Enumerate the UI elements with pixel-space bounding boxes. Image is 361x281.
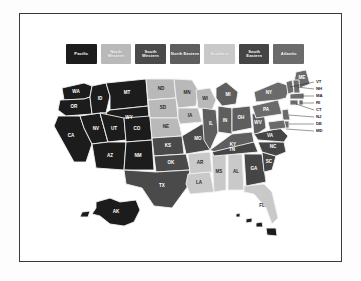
leader-line-NJ [289,115,314,117]
label-GA: GA [251,166,259,171]
leader-line-CT [296,104,314,110]
label-OK: OK [168,160,176,165]
state-MA[interactable] [290,93,304,99]
label-NY: NY [266,90,272,95]
label-KS: KS [165,143,171,148]
label-TX: TX [159,183,166,188]
label-SD: SD [160,105,167,110]
label-VA: VA [267,133,274,138]
label-ND: ND [158,86,165,91]
label-MS: MS [216,169,223,174]
label-MO: MO [194,136,202,141]
label-NM: NM [134,153,141,158]
label-WI: WI [202,96,208,101]
legend-chip-pacific[interactable]: Pacific [66,44,97,64]
state-NH[interactable] [293,80,300,93]
label-SC: SC [266,159,273,164]
label-IA: IA [188,113,193,118]
state-HI-island-4[interactable] [266,228,277,236]
callout-VT: VT [316,79,322,84]
callout-NJ: NJ [316,114,322,119]
state-RI[interactable] [299,100,303,105]
label-ME: ME [299,75,306,80]
label-WA: WA [72,89,80,94]
legend-chip-north-eastern[interactable]: North Eastern [170,44,201,64]
legend-chip-atlantic[interactable]: Atlantic [273,44,304,64]
region-legend: Pacific North Western South Western Nort… [66,44,304,64]
legend-chip-south-eastern[interactable]: South Eastern [239,44,270,64]
state-AK-tail[interactable] [80,211,90,217]
us-map: WA OR CA NV ID MT WY UT CO AZ NM ND SD N… [40,66,340,256]
callout-CT: CT [316,107,322,112]
state-NJ[interactable] [282,109,290,120]
label-IN: IN [223,118,228,123]
label-WV: WV [254,120,262,125]
label-MN: MN [183,90,191,95]
label-AZ: AZ [107,153,113,158]
state-HI-island-3[interactable] [256,222,263,227]
label-AR: AR [197,160,204,165]
callout-MA: MA [316,93,323,98]
label-UT: UT [111,126,117,131]
leader-line-MD [286,129,314,131]
label-WY: WY [125,115,132,120]
label-IL: IL [209,121,213,126]
label-AL: AL [233,169,239,174]
callout-MD: MD [316,128,323,133]
state-HI-island-1[interactable] [236,213,240,217]
label-MT: MT [124,90,131,95]
label-TN: TN [229,147,236,152]
us-map-svg: WA OR CA NV ID MT WY UT CO AZ NM ND SD N… [40,66,340,256]
label-AK: AK [113,209,120,214]
label-OH: OH [238,115,246,120]
state-HI-island-2[interactable] [246,218,252,223]
figure-frame: Pacific North Western South Western Nort… [19,13,342,262]
label-ID: ID [98,96,103,101]
label-NC: NC [270,144,277,149]
legend-chip-south-western[interactable]: South Western [135,44,166,64]
label-FL: FL [259,203,265,208]
callout-NH: NH [316,86,322,91]
callout-DE: DE [316,121,322,126]
map-figure: Pacific North Western South Western Nort… [0,0,361,281]
label-NV: NV [93,126,100,131]
callout-RI: RI [316,100,320,105]
legend-chip-north-western[interactable]: North Western [101,44,132,64]
label-PA: PA [263,107,270,112]
label-NE: NE [163,124,169,129]
legend-chip-southern[interactable]: Southern [204,44,235,64]
label-MI: MI [225,92,230,97]
label-OR: OR [71,104,79,109]
state-MD[interactable] [268,120,286,130]
label-CO: CO [134,126,141,131]
label-LA: LA [196,180,203,185]
label-CA: CA [68,133,75,138]
